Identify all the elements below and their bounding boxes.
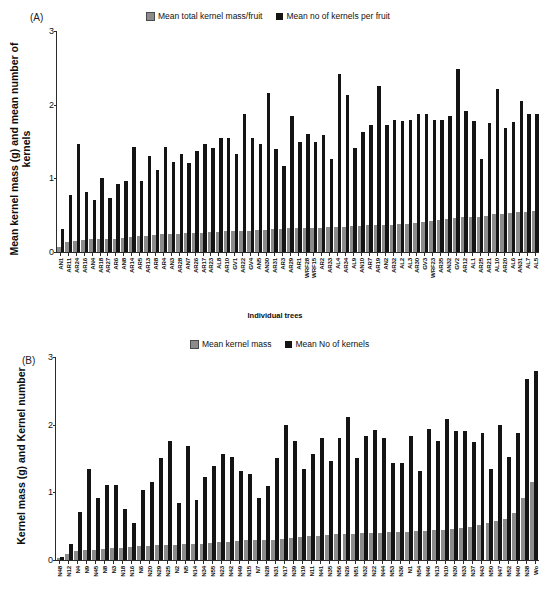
bar-group xyxy=(357,31,365,252)
bar xyxy=(464,111,467,252)
x-category-label: N51 xyxy=(352,566,359,577)
bar-group xyxy=(119,357,128,560)
bar-group xyxy=(136,357,145,560)
legend-swatch-number-icon xyxy=(276,13,283,20)
panel-b-plot-area: 0123 xyxy=(55,357,539,561)
bar-group xyxy=(494,357,503,560)
bar-group xyxy=(181,357,190,560)
bar-group xyxy=(508,31,516,252)
x-category-label: AL6 xyxy=(508,258,515,269)
bar xyxy=(168,441,172,560)
x-category-label: AR6 xyxy=(112,258,119,270)
x-category: N39 xyxy=(288,564,297,607)
bar xyxy=(361,132,364,252)
x-category: AL6 xyxy=(508,256,516,302)
x-category-label: AN3 xyxy=(167,258,174,270)
x-category: N36 xyxy=(396,564,405,607)
x-category: N10 xyxy=(441,564,450,607)
x-category-label: N9 xyxy=(83,566,90,574)
bar xyxy=(535,114,538,252)
x-category: N53 xyxy=(387,564,396,607)
x-category: N22 xyxy=(369,564,378,607)
x-category: AN31 xyxy=(515,256,523,302)
bar-group xyxy=(239,31,247,252)
panel-a-tag: (A) xyxy=(30,12,43,23)
x-category: AR8 xyxy=(151,256,159,302)
bar-group xyxy=(414,357,423,560)
x-category: AR35 xyxy=(436,256,444,302)
bar xyxy=(219,138,222,252)
bar-group xyxy=(516,31,524,252)
x-category-label: AR29 xyxy=(286,258,293,273)
bar-group xyxy=(65,31,73,252)
x-category-label: AN31 xyxy=(516,258,523,273)
x-category-label: GV4 xyxy=(247,258,254,270)
legend-item-mass-b: Mean kernel mass xyxy=(190,339,271,349)
x-category: GV1 xyxy=(230,256,238,302)
panel-b-legend: Mean kernel mass Mean No of kernels xyxy=(190,339,369,349)
bar-group xyxy=(294,31,302,252)
bar-group xyxy=(199,31,207,252)
x-category-label: AR26 xyxy=(191,258,198,273)
x-category: N50 xyxy=(486,564,495,607)
x-category-label: N38 xyxy=(522,566,529,577)
bar-group xyxy=(145,357,154,560)
x-category: N49 xyxy=(234,564,243,607)
bar-group xyxy=(468,31,476,252)
bar-group xyxy=(270,31,278,252)
x-category-label: AR5 xyxy=(136,258,143,270)
bar-group xyxy=(255,31,263,252)
bar-group xyxy=(57,31,65,252)
x-category-label: Wo xyxy=(531,566,538,575)
x-category: WRF23 xyxy=(428,256,436,302)
x-category: AR11 xyxy=(64,256,72,302)
x-category: AL4 xyxy=(333,256,341,302)
bar xyxy=(150,482,154,560)
x-category: AN3 xyxy=(167,256,175,302)
x-category: AR32 xyxy=(389,256,397,302)
x-category-label: N20 xyxy=(146,566,153,577)
x-category: AR34 xyxy=(341,256,349,302)
bar-group xyxy=(247,31,255,252)
bar xyxy=(472,442,476,560)
x-category: AL2 xyxy=(397,256,405,302)
bar-group xyxy=(523,31,531,252)
bar xyxy=(417,114,420,252)
x-category-label: N14 xyxy=(191,566,198,577)
x-category: N7 xyxy=(252,564,261,607)
panel-b-y-axis-title: Kernel mass (g) and Kernel number xyxy=(15,356,27,556)
x-category: AR10 xyxy=(222,256,230,302)
bar-group xyxy=(413,31,421,252)
x-category-label: N34 xyxy=(199,566,206,577)
x-category-label: N23 xyxy=(217,566,224,577)
bar xyxy=(227,138,230,252)
bar xyxy=(203,144,206,252)
x-category: N54 xyxy=(414,564,423,607)
bar xyxy=(330,159,333,252)
bar-group xyxy=(492,31,500,252)
bar xyxy=(93,200,96,252)
x-category: N32 xyxy=(360,564,369,607)
bar xyxy=(504,128,507,252)
x-category: N34 xyxy=(199,564,208,607)
bar-group xyxy=(288,357,297,560)
x-category: N23 xyxy=(216,564,225,607)
x-category-label: N39 xyxy=(289,566,296,577)
bar-group xyxy=(369,357,378,560)
bar xyxy=(195,151,198,252)
x-category: N1 xyxy=(405,564,414,607)
bar-group xyxy=(208,357,217,560)
bar-group xyxy=(440,357,449,560)
bar xyxy=(221,454,225,560)
x-category: N44 xyxy=(378,564,387,607)
bar-group xyxy=(429,31,437,252)
bar-group xyxy=(342,31,350,252)
x-category: N43 xyxy=(477,564,486,607)
bar xyxy=(132,147,135,252)
panel-a-legend: Mean total kernel mass/fruit Mean no of … xyxy=(146,11,390,21)
bar xyxy=(267,93,270,252)
x-category: AR7 xyxy=(365,256,373,302)
x-category-label: AN2 xyxy=(381,258,388,270)
bar-group xyxy=(324,357,333,560)
bar-group xyxy=(512,357,521,560)
